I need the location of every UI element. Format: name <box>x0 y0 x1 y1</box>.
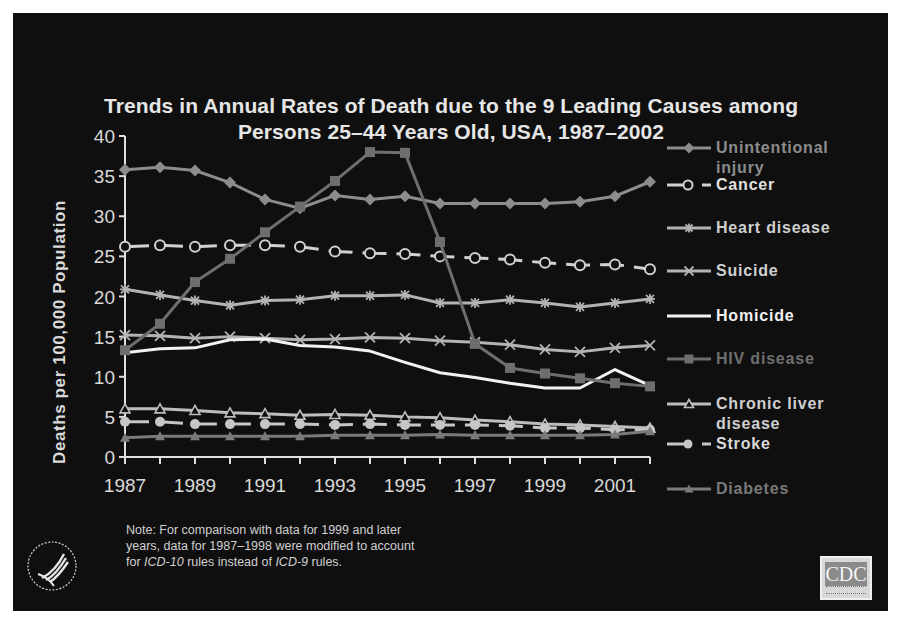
x-tick-label: 1995 <box>384 475 426 496</box>
x-tick-label: 1997 <box>454 475 496 496</box>
y-tick-label: 20 <box>94 287 115 308</box>
cdc-logo: CDC <box>820 556 872 600</box>
legend-label-homicide: Homicide <box>716 306 794 326</box>
legend-label-hiv-disease: HIV disease <box>716 349 815 369</box>
series-suicide <box>120 330 655 357</box>
legend-item-swatch <box>667 355 711 364</box>
series-cancer <box>120 240 655 274</box>
x-tick-label: 1991 <box>244 475 286 496</box>
series-unintentional-injury <box>119 161 656 214</box>
series-hiv-disease <box>120 147 655 391</box>
x-tick-label: 1999 <box>524 475 566 496</box>
y-tick-label: 40 <box>94 126 115 147</box>
legend-label-cancer: Cancer <box>716 175 775 195</box>
footnote-line1: Note: For comparison with data for 1999 … <box>126 522 414 538</box>
x-tick-label: 1989 <box>174 475 216 496</box>
legend-item-swatch <box>667 485 711 493</box>
legend-item-swatch <box>667 143 711 154</box>
legend-item-swatch <box>667 181 711 190</box>
legend-label-unintentional-injury: Unintentionalinjury <box>716 138 829 178</box>
legend-label-chronic-liver-disease: Chronic liverdisease <box>716 394 824 434</box>
legend-label-heart-disease: Heart disease <box>716 218 830 238</box>
y-tick-label: 25 <box>94 246 115 267</box>
legend-item-swatch <box>667 400 711 408</box>
legend-label-suicide: Suicide <box>716 261 779 281</box>
legend-item-swatch <box>667 267 711 276</box>
cdc-logo-text: CDC <box>825 562 867 586</box>
legend-item-swatch <box>667 224 711 233</box>
y-tick-label: 35 <box>94 166 115 187</box>
y-tick-label: 10 <box>94 367 115 388</box>
legend-label-stroke: Stroke <box>716 434 771 454</box>
legend-item-swatch <box>667 440 711 449</box>
footnote: Note: For comparison with data for 1999 … <box>126 522 414 570</box>
x-tick-label: 1987 <box>104 475 146 496</box>
y-tick-label: 0 <box>104 447 115 468</box>
y-tick-label: 30 <box>94 206 115 227</box>
x-tick-label: 1993 <box>314 475 356 496</box>
footnote-line2: years, data for 1987–1998 were modified … <box>126 538 414 554</box>
series-homicide <box>125 339 650 388</box>
x-tick-label: 2001 <box>594 475 636 496</box>
footnote-line3: for ICD-10 rules instead of ICD-9 rules. <box>126 554 414 570</box>
y-tick-label: 15 <box>94 327 115 348</box>
series-heart-disease <box>120 284 655 312</box>
axes: 0510152025303540198719891991199319951997… <box>94 126 650 496</box>
cdc-logo-tagline <box>826 586 866 594</box>
y-tick-label: 5 <box>104 407 115 428</box>
legend-label-diabetes: Diabetes <box>716 479 789 499</box>
hhs-eagle-logo-icon <box>24 538 80 594</box>
